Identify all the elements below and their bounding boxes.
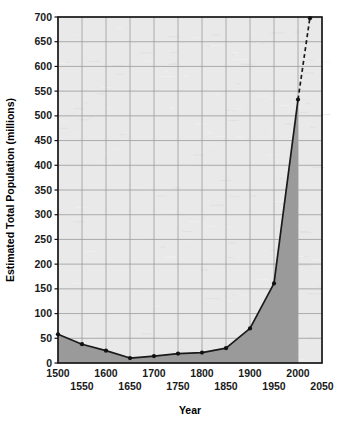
y-tick-label: 650 [34,35,52,47]
x-tick-label: 1800 [190,367,214,379]
y-axis-title: Estimated Total Population (millions) [4,98,16,282]
x-tick-label: 1550 [70,380,94,392]
y-tick-label: 450 [34,134,52,146]
x-axis-tick-labels: 1500155016001650170017501800185019001950… [46,367,334,392]
x-tick-label: 1500 [46,367,70,379]
x-axis-title: Year [179,404,201,416]
x-tick-label: 2050 [310,380,334,392]
x-tick-label: 1600 [94,367,118,379]
y-tick-label: 200 [34,258,52,270]
population-chart: 0501001502002503003504004505005506006507… [0,0,341,431]
y-tick-label: 500 [34,109,52,121]
y-tick-label: 700 [34,11,52,23]
y-tick-label: 150 [34,282,52,294]
x-tick-label: 1950 [262,380,286,392]
y-tick-label: 400 [34,159,52,171]
x-tick-label: 1650 [118,380,142,392]
y-tick-label: 600 [34,60,52,72]
y-tick-label: 100 [34,307,52,319]
y-tick-label: 50 [40,332,52,344]
x-tick-label: 2000 [286,367,310,379]
y-tick-label: 300 [34,208,52,220]
y-tick-label: 550 [34,85,52,97]
x-tick-label: 1700 [142,367,166,379]
x-tick-label: 1850 [214,380,238,392]
y-tick-label: 350 [34,184,52,196]
y-tick-label: 250 [34,233,52,245]
y-axis-tick-labels: 0501001502002503003504004505005506006507… [34,11,58,369]
x-tick-label: 1750 [166,380,190,392]
chart-canvas: 0501001502002503003504004505005506006507… [0,0,341,431]
x-tick-label: 1900 [238,367,262,379]
